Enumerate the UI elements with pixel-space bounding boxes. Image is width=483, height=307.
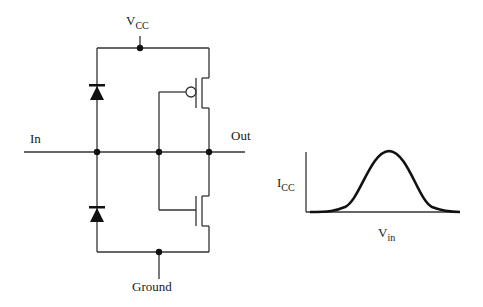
vin-axis-label: Vin (378, 226, 395, 239)
icc-axis-label: ICC (277, 176, 295, 189)
output-label: Out (231, 129, 251, 142)
circuit-diagram (0, 0, 483, 307)
vcc-label: VCC (126, 14, 149, 27)
vin-label-sub: in (387, 232, 395, 243)
vcc-label-main: V (126, 13, 135, 28)
ground-label: Ground (132, 280, 172, 293)
vcc-label-sub: CC (135, 20, 148, 31)
input-label: In (30, 132, 41, 145)
icc-label-sub: CC (281, 182, 294, 193)
vin-label-main: V (378, 225, 387, 240)
icc-curve (310, 151, 460, 212)
